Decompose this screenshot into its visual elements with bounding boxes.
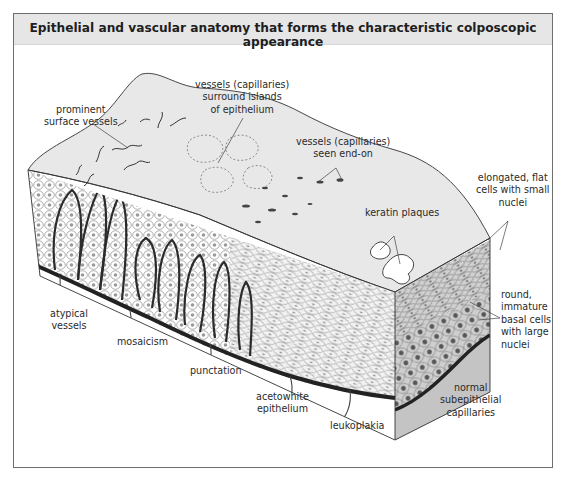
label-prominent-surface-vessels: prominent surface vessels: [44, 104, 118, 129]
label-vessels-surround-islands: vessels (capillaries) surround islands o…: [195, 79, 289, 116]
label-normal-subepithelial-capillaries: normal subepithelial capillaries: [440, 382, 501, 419]
label-round-basal-cells: round, immature basal cells with large n…: [501, 289, 551, 351]
label-punctation: punctation: [190, 365, 242, 377]
label-leukoplakia: leukoplakia: [330, 420, 384, 432]
label-elongated-flat-cells: elongated, flat cells with small nuclei: [476, 172, 550, 209]
label-vessels-end-on: vessels (capillaries) seen end-on: [296, 136, 390, 161]
label-keratin-plaques: keratin plaques: [365, 207, 439, 219]
label-mosaicism: mosaicism: [117, 336, 168, 348]
label-atypical-vessels: atypical vessels: [50, 308, 88, 333]
label-acetowhite-epithelium: acetowhite epithelium: [256, 391, 309, 416]
